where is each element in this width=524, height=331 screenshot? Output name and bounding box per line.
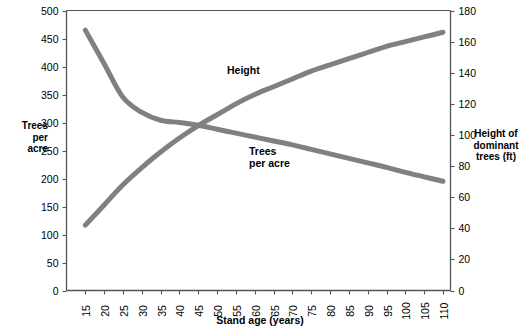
- y-axis-left-tick-label-100: 100: [27, 229, 59, 241]
- y-axis-right-tick-label-180: 180: [459, 5, 491, 17]
- y-axis-right-tick-label-100: 100: [459, 129, 491, 141]
- x-axis-tick-label-50: 50: [212, 296, 224, 326]
- data-series: [85, 30, 443, 225]
- x-axis-tick-label-85: 85: [344, 296, 356, 326]
- y-axis-right-tick-label-160: 160: [459, 36, 491, 48]
- x-axis-tick-label-65: 65: [269, 296, 281, 326]
- y-axis-right-tick-label-40: 40: [459, 222, 491, 234]
- y-axis-left-tick-label-200: 200: [27, 173, 59, 185]
- y-axis-left-tick-label-450: 450: [27, 33, 59, 45]
- x-axis-tick-label-105: 105: [419, 296, 431, 326]
- x-axis-tick-label-25: 25: [118, 296, 130, 326]
- y-axis-right-tick-label-80: 80: [459, 160, 491, 172]
- x-axis-tick-label-30: 30: [137, 296, 149, 326]
- x-axis-tick-label-80: 80: [325, 296, 337, 326]
- x-axis-tick-label-90: 90: [363, 296, 375, 326]
- x-axis-tick-label-60: 60: [250, 296, 262, 326]
- x-axis-tick-label-55: 55: [231, 296, 243, 326]
- y-axis-left-tick-label-300: 300: [27, 117, 59, 129]
- x-axis-tick-label-110: 110: [438, 296, 450, 326]
- y-axis-left-tick-label-250: 250: [27, 145, 59, 157]
- chart-figure: Trees per acre Height of dominant trees …: [0, 0, 524, 331]
- x-axis-tick-label-35: 35: [156, 296, 168, 326]
- x-axis-tick-label-40: 40: [174, 296, 186, 326]
- y-axis-left-tick-label-0: 0: [27, 285, 59, 297]
- y-axis-right-tick-label-20: 20: [459, 253, 491, 265]
- y-axis-right-tick-label-120: 120: [459, 98, 491, 110]
- x-axis-tick-label-15: 15: [80, 296, 92, 326]
- y-axis-left-tick-label-500: 500: [27, 5, 59, 17]
- y-axis-left-tick-label-150: 150: [27, 201, 59, 213]
- y-axis-right-tick-label-0: 0: [459, 285, 491, 297]
- y-axis-right-title-line-2: dominant: [468, 140, 524, 152]
- y-axis-right-tick-label-140: 140: [459, 67, 491, 79]
- series-label-trees-line-1: Trees: [249, 145, 290, 157]
- y-axis-left-tick-label-50: 50: [27, 257, 59, 269]
- series-line-height: [85, 32, 443, 225]
- series-label-height: Height: [227, 64, 260, 76]
- series-label-trees-line-2: per acre: [249, 157, 290, 169]
- y-axis-left-tick-label-350: 350: [27, 89, 59, 101]
- x-axis-tick-label-45: 45: [193, 296, 205, 326]
- y-axis-left-tick-label-400: 400: [27, 61, 59, 73]
- y-axis-left-title-line-2: per: [2, 132, 48, 144]
- x-axis-tick-label-20: 20: [99, 296, 111, 326]
- series-label-trees-per-acre: Trees per acre: [249, 145, 290, 169]
- x-axis-tick-label-95: 95: [382, 296, 394, 326]
- x-axis-tick-label-75: 75: [306, 296, 318, 326]
- y-axis-right-tick-label-60: 60: [459, 191, 491, 203]
- x-axis-tick-label-70: 70: [287, 296, 299, 326]
- x-axis-tick-label-100: 100: [400, 296, 412, 326]
